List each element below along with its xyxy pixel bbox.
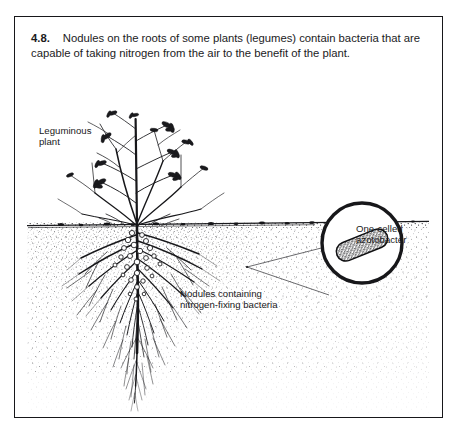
label-leguminous-plant: Leguminous plant bbox=[39, 125, 91, 148]
label-one-celled-azotobacter: One-celled azotobacter bbox=[356, 223, 406, 246]
figure-number: 4.8. bbox=[31, 32, 50, 44]
figure-caption-text: Nodules on the roots of some plants (leg… bbox=[31, 32, 420, 59]
label-nodules-containing-bacteria: Nodules containing nitrogen-fixing bacte… bbox=[180, 288, 278, 311]
figure-frame: 4.8.Nodules on the roots of some plants … bbox=[14, 16, 443, 418]
figure-caption: 4.8.Nodules on the roots of some plants … bbox=[31, 31, 427, 61]
